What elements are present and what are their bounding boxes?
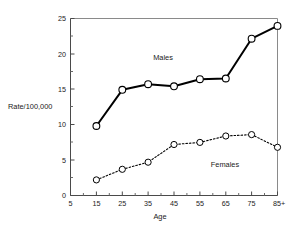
males-markers bbox=[93, 23, 281, 130]
series-label-females: Females bbox=[211, 160, 240, 169]
females-markers bbox=[93, 132, 280, 183]
y-tick-labels: 25 20 15 10 5 0 bbox=[58, 14, 66, 200]
x-tick-label: 35 bbox=[144, 199, 152, 208]
y-tick-label: 15 bbox=[58, 85, 66, 94]
x-tick-label: 75 bbox=[248, 199, 256, 208]
figure-container: 25 20 15 10 5 0 bbox=[0, 0, 300, 237]
y-tick-label: 10 bbox=[58, 120, 66, 129]
x-tick-label: 45 bbox=[170, 199, 178, 208]
x-tick-label: 15 bbox=[92, 199, 100, 208]
y-tick-label: 25 bbox=[58, 14, 66, 23]
x-tick-label: 25 bbox=[118, 199, 126, 208]
series-males bbox=[93, 23, 281, 130]
series-females bbox=[93, 132, 280, 183]
x-tick-label: 65 bbox=[222, 199, 230, 208]
line-chart: 25 20 15 10 5 0 bbox=[0, 0, 300, 237]
x-axis-major-ticks bbox=[71, 192, 278, 196]
females-line bbox=[96, 135, 277, 180]
y-tick-label: 5 bbox=[62, 156, 66, 165]
y-tick-label: 0 bbox=[62, 191, 66, 200]
y-tick-label: 20 bbox=[58, 50, 66, 59]
y-axis-title: Rate/100,000 bbox=[8, 102, 52, 111]
x-tick-label: 55 bbox=[196, 199, 204, 208]
x-axis-title: Age bbox=[153, 212, 166, 221]
x-tick-label: 85+ bbox=[273, 199, 285, 208]
x-tick-labels: 5 15 25 35 45 55 65 75 85+ bbox=[69, 199, 286, 208]
x-tick-label: 5 bbox=[69, 199, 73, 208]
series-label-males: Males bbox=[153, 53, 173, 62]
